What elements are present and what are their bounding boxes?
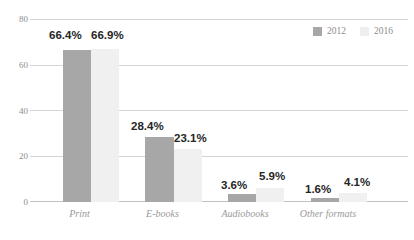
data-label-audiobooks-2012: 3.6% <box>221 180 247 192</box>
y-tick-label: 40 <box>2 107 28 116</box>
legend-swatch-icon <box>313 27 322 36</box>
x-tick-label-audiobooks: Audiobooks <box>200 209 290 219</box>
data-label-print-2012: 66.4% <box>49 30 82 42</box>
bar-ebooks-2012[interactable] <box>145 137 174 202</box>
bar-chart: 80 60 40 20 0 66.4 <box>0 0 414 240</box>
data-label-audiobooks-2016: 5.9% <box>259 171 285 183</box>
bar-ebooks-2016[interactable] <box>174 149 202 202</box>
legend-label-2016: 2016 <box>374 27 393 37</box>
data-label-ebooks-2012: 28.4% <box>131 121 164 133</box>
data-label-ebooks-2016: 23.1% <box>174 133 207 145</box>
x-tick-label-print: Print <box>35 209 124 219</box>
y-tick-label: 60 <box>2 61 28 70</box>
y-tick-label: 80 <box>2 15 28 24</box>
bar-other-formats-2016[interactable] <box>339 193 367 202</box>
plot-area <box>30 19 408 202</box>
x-tick-label-ebooks: E-books <box>118 209 207 219</box>
legend-item-2012[interactable]: 2012 <box>313 27 346 37</box>
bar-other-formats-2012[interactable] <box>311 198 339 202</box>
legend: 2012 2016 <box>313 27 393 37</box>
bar-group-other-formats <box>311 19 367 202</box>
y-tick-label: 0 <box>2 198 28 207</box>
legend-label-2012: 2012 <box>327 27 346 37</box>
bar-group-ebooks <box>145 19 202 202</box>
data-label-other-formats-2012: 1.6% <box>305 184 331 196</box>
legend-swatch-icon <box>360 27 369 36</box>
bar-print-2016[interactable] <box>91 49 119 202</box>
y-tick-label: 20 <box>2 152 28 161</box>
legend-item-2016[interactable]: 2016 <box>360 27 393 37</box>
bar-group-print <box>63 19 119 202</box>
x-tick-label-other-formats: Other formats <box>283 209 373 219</box>
bar-audiobooks-2016[interactable] <box>256 188 284 202</box>
data-label-print-2016: 66.9% <box>91 30 124 42</box>
data-label-other-formats-2016: 4.1% <box>344 177 370 189</box>
bar-audiobooks-2012[interactable] <box>228 194 256 202</box>
bar-print-2012[interactable] <box>63 50 91 202</box>
